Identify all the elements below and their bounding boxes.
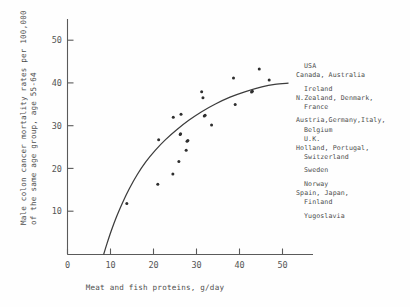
legend-group: NorwaySpain, Japan,Finland [296,180,410,207]
x-axis-ticks [68,249,283,255]
x-tick-label-30: 30 [191,260,201,270]
y-tick-label-10: 10 [52,206,62,216]
data-point [125,202,128,205]
axis-lines [68,19,314,255]
legend-line: Holland, Portugal, [296,144,410,153]
y-axis-title: Male colon cancer mortality rates per 10… [19,10,38,225]
legend-group: Austria,Germany,Italy,BelgiumU.K.Holland… [296,116,410,161]
data-point [258,67,261,70]
legend-line: N.Zealand, Denmark, [296,94,410,103]
x-tick-label-50: 50 [277,260,287,270]
legend-line: Ireland [296,85,410,94]
y-axis-ticks [68,40,74,211]
fitted-trend-curve [104,83,289,254]
x-tick-label-40: 40 [234,260,244,270]
data-point [200,90,203,93]
data-point [180,113,183,116]
legend-group: IrelandN.Zealand, Denmark,France [296,85,410,112]
y-tick-label-20: 20 [52,164,62,174]
legend-line: Canada, Australia [296,71,410,80]
legend-line: USA [296,62,410,71]
data-point [186,139,189,142]
legend-group: USACanada, Australia [296,62,410,80]
legend-group: Sweden [296,166,410,175]
legend-line: Spain, Japan, [296,189,410,198]
x-tick-label-0: 0 [65,260,70,270]
legend-line: Finland [296,198,410,207]
data-point [172,116,175,119]
y-axis-title-line-1: Male colon cancer mortality rates per 10… [19,10,28,225]
data-point [210,124,213,127]
x-tick-label-10: 10 [105,260,115,270]
x-axis-tick-labels: 0 10 20 30 40 50 [65,260,288,270]
y-tick-label-50: 50 [52,35,62,45]
legend-line: U.K. [296,135,410,144]
data-point [156,183,159,186]
legend-line: France [296,103,410,112]
y-tick-label-40: 40 [52,78,62,88]
legend-line: Yugoslavia [296,212,410,221]
data-point [234,103,237,106]
legend-line: Sweden [296,166,410,175]
legend-line: Belgium [296,126,410,135]
data-point [177,160,180,163]
data-point [268,79,271,82]
x-axis-title: Meat and fish proteins, g/day [86,283,225,292]
data-point-group [125,67,270,205]
data-point [179,132,182,135]
data-point [171,172,174,175]
data-point [201,96,204,99]
data-point [251,90,254,93]
legend-line: Switzerland [296,153,410,162]
y-tick-label-30: 30 [52,121,62,131]
data-point [185,149,188,152]
y-axis-tick-labels: 50 40 30 20 10 [52,35,62,216]
legend-line: Austria,Germany,Italy, [296,116,410,125]
legend-group: Yugoslavia [296,212,410,221]
data-point [157,138,160,141]
data-point [232,76,235,79]
chart-figure: Male colon cancer mortality rates per 10… [0,0,410,307]
country-annotation-legend: USACanada, AustraliaIrelandN.Zealand, De… [296,62,410,225]
data-point [204,114,207,117]
x-tick-label-20: 20 [148,260,158,270]
legend-line: Norway [296,180,410,189]
y-axis-title-line-2: of the same age group, age 55-64 [29,72,38,225]
